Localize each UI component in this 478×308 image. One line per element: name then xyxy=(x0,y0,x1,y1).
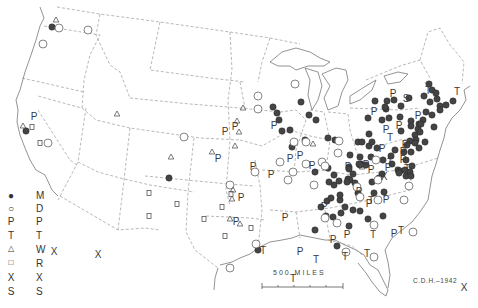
letter-p-marker: P xyxy=(390,88,397,99)
filled-circle-marker xyxy=(298,99,304,105)
legend-row-p: P P xyxy=(6,216,76,228)
filled-circle-marker xyxy=(372,98,378,104)
open-circle-marker xyxy=(374,196,382,204)
letter-p-marker: P xyxy=(309,160,316,171)
filled-circle-marker xyxy=(429,112,435,118)
filled-circle-marker xyxy=(380,213,386,219)
filled-circle-marker xyxy=(313,117,319,123)
letter-p-marker: P xyxy=(297,246,304,257)
filled-circle-marker xyxy=(356,161,362,167)
filled-circle-marker xyxy=(392,147,398,153)
legend-row-t: T T xyxy=(6,230,76,242)
filled-circle-marker xyxy=(350,207,356,213)
open-circle-marker xyxy=(310,181,318,189)
square-marker xyxy=(220,205,224,210)
square-marker xyxy=(30,125,34,130)
filled-circle-marker xyxy=(423,109,429,115)
filled-circle-marker xyxy=(270,104,276,110)
open-circle-marker xyxy=(291,80,299,88)
open-circle-marker xyxy=(321,214,329,222)
filled-circle-marker xyxy=(437,107,443,113)
filled-circle-marker xyxy=(312,227,318,233)
filled-circle-marker xyxy=(431,124,437,130)
filled-circle-marker xyxy=(336,178,342,184)
letter-s-marker: S xyxy=(403,93,410,104)
letter-p-marker: P xyxy=(330,234,337,245)
legend-row-s: S S xyxy=(6,286,76,298)
filled-circle-marker xyxy=(279,128,285,134)
letter-t-icon: T xyxy=(6,230,16,241)
letter-t-marker: T xyxy=(364,248,370,259)
square-marker xyxy=(202,217,206,222)
letter-p-marker: P xyxy=(368,164,375,175)
letter-t-marker: T xyxy=(398,225,404,236)
letter-t-marker: T xyxy=(342,251,348,262)
letter-p-marker: P xyxy=(402,139,409,150)
square-marker xyxy=(249,226,253,231)
filled-circle-marker xyxy=(357,208,363,214)
filled-circle-marker xyxy=(287,127,293,133)
letter-p-marker: P xyxy=(232,121,239,132)
square-icon: □ xyxy=(6,258,16,267)
open-circle-marker xyxy=(335,137,343,145)
filled-circle-marker xyxy=(344,179,350,185)
legend-code: S xyxy=(36,286,43,297)
letter-t-marker: T xyxy=(387,157,393,168)
open-circle-marker xyxy=(252,240,260,248)
letter-p-marker: P xyxy=(391,228,398,239)
letter-p-marker: P xyxy=(282,212,289,223)
letter-p-marker: P xyxy=(371,106,378,117)
open-circle-marker xyxy=(289,168,297,176)
open-circle-marker xyxy=(44,139,52,147)
triangle-marker xyxy=(20,123,26,128)
square-marker xyxy=(147,191,151,196)
filled-circle-marker xyxy=(427,99,433,105)
filled-circle-marker xyxy=(408,149,414,155)
triangle-marker xyxy=(310,141,316,146)
filled-circle-marker xyxy=(325,135,331,141)
legend-code: M xyxy=(36,190,44,201)
letter-p-marker: P xyxy=(287,153,294,164)
filled-circle-marker xyxy=(433,90,439,96)
letter-p-marker: P xyxy=(250,161,257,172)
filled-circle-marker xyxy=(434,96,440,102)
letter-p-marker: P xyxy=(344,229,351,240)
letter-t-marker: T xyxy=(260,245,266,256)
filled-circle-marker xyxy=(274,110,280,116)
legend-code: P xyxy=(36,216,43,227)
letter-t-marker: T xyxy=(368,195,374,206)
legend-row-w: △ W xyxy=(6,244,76,256)
filled-circle-marker xyxy=(408,173,414,179)
filled-circle-marker xyxy=(306,112,312,118)
scale-bar xyxy=(262,283,343,289)
letter-p-marker: P xyxy=(215,153,222,164)
filled-circle-marker xyxy=(331,172,337,178)
open-circle-marker xyxy=(254,105,262,113)
square-marker xyxy=(223,234,227,239)
site-markers: PPPPPPPPPPPPPPPPPPPPPPPPPPPPPPPPPPTTTTTT… xyxy=(20,17,467,293)
filled-circle-marker xyxy=(450,98,456,104)
legend-row-x: X X xyxy=(6,272,76,284)
triangle-icon: △ xyxy=(6,244,16,253)
open-circle-marker xyxy=(333,219,341,227)
open-circle-marker xyxy=(55,24,63,32)
open-circle-marker xyxy=(226,264,234,272)
letter-p-marker: P xyxy=(31,111,38,122)
letter-p-marker: P xyxy=(271,120,278,131)
filled-circle-marker xyxy=(338,210,344,216)
letter-p-marker: P xyxy=(356,186,363,197)
letter-s-icon: S xyxy=(6,286,16,297)
legend-row-m: ● M xyxy=(6,190,76,202)
letter-p-marker: P xyxy=(321,201,328,212)
filled-circle-marker xyxy=(342,204,348,210)
letter-p-marker: P xyxy=(233,216,240,227)
filled-circle-marker xyxy=(23,128,29,134)
open-circle-marker xyxy=(180,133,188,141)
square-marker xyxy=(147,214,151,219)
letter-p-icon: P xyxy=(6,216,16,227)
open-circle-marker xyxy=(409,228,417,236)
filled-circle-marker xyxy=(379,117,385,123)
filled-circle-marker xyxy=(384,98,390,104)
letter-t-marker: T xyxy=(454,86,460,97)
letter-t-marker: T xyxy=(387,132,393,143)
